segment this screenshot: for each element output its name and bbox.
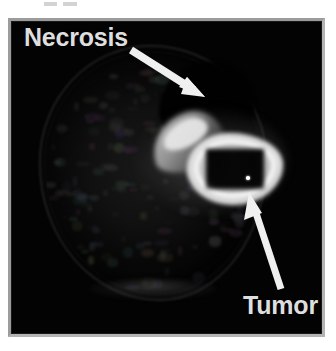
- fiducial-dot: [246, 176, 250, 180]
- figure-root: Necrosis Tumor: [0, 0, 336, 351]
- lower-skull-rim: [89, 279, 217, 299]
- scan-canvas: Necrosis Tumor: [11, 21, 322, 334]
- cropped-caption-remnant: [44, 2, 88, 7]
- tumor-necrotic-core: [206, 149, 264, 189]
- scan-image-frame: Necrosis Tumor: [8, 18, 325, 337]
